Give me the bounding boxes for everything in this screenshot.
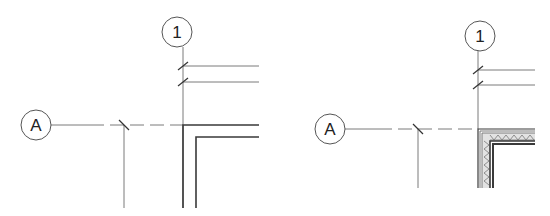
- layered-wall-corner: [478, 129, 535, 188]
- left-detail: 1 A: [21, 17, 259, 208]
- grid-bubble-1-left[interactable]: 1: [162, 17, 192, 47]
- grid-label: A: [324, 120, 336, 139]
- right-detail: 1 A: [315, 21, 535, 188]
- drawing-canvas: 1 A: [0, 0, 550, 216]
- grid-label: 1: [172, 23, 181, 42]
- grid-bubble-1-right[interactable]: 1: [465, 21, 495, 51]
- wall-inner-left: [196, 137, 259, 208]
- grid-label: A: [30, 116, 42, 135]
- grid-bubble-a-right[interactable]: A: [315, 114, 345, 144]
- grid-bubble-a-left[interactable]: A: [21, 110, 51, 140]
- grid-label: 1: [475, 27, 484, 46]
